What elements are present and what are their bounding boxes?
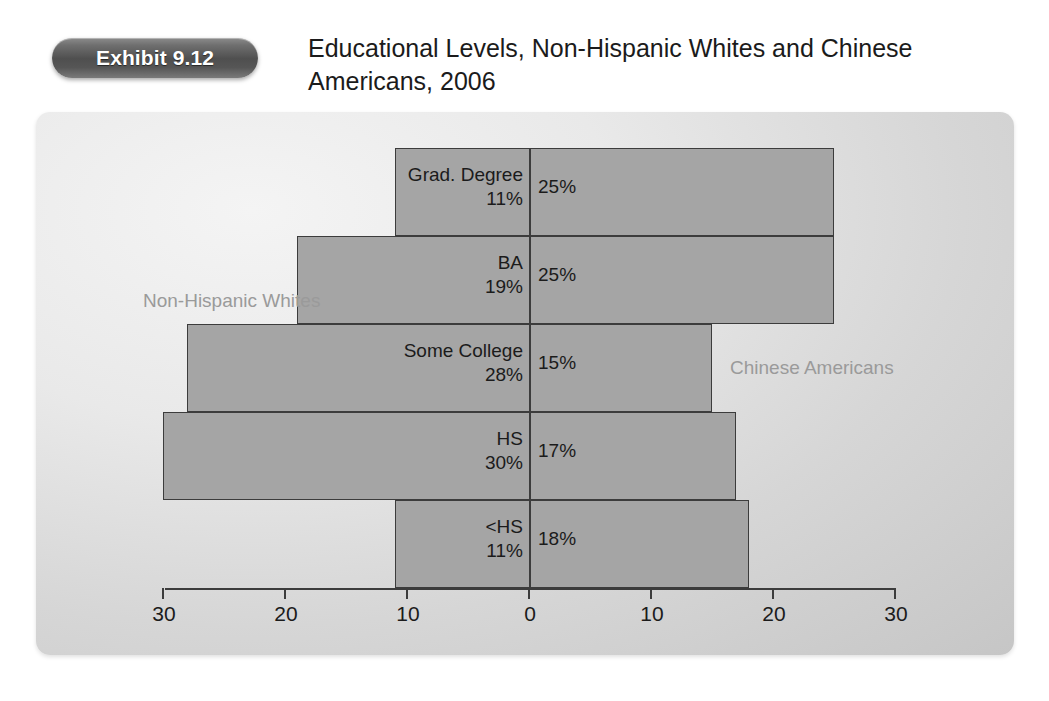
x-axis-tick-label: 30: [866, 602, 926, 626]
bar-left-non-hispanic-whites: <HS11%: [395, 500, 530, 588]
bar-category-and-value-label: Grad. Degree11%: [408, 163, 523, 211]
x-axis-tick-label: 20: [744, 602, 804, 626]
bar-left-non-hispanic-whites: Some College28%: [187, 324, 530, 412]
bar-value-left: 30%: [485, 451, 523, 475]
zero-axis-line: [529, 148, 531, 588]
bar-value-right: 18%: [538, 527, 576, 551]
exhibit-number-label: Exhibit 9.12: [96, 46, 214, 70]
bar-category-label: BA: [485, 251, 523, 275]
bar-value-right: 25%: [538, 175, 576, 199]
bar-right-chinese-americans: 17%: [529, 412, 736, 500]
bar-value-right: 25%: [538, 263, 576, 287]
bar-category-label: Some College: [404, 339, 523, 363]
bar-right-chinese-americans: 25%: [529, 148, 834, 236]
bar-row: Grad. Degree11%25%: [36, 148, 1014, 236]
series-label-non-hispanic-whites: Non-Hispanic Whites: [143, 290, 320, 312]
bar-category-and-value-label: HS30%: [485, 427, 523, 475]
x-axis-tick: [650, 588, 652, 599]
bar-category-label: Grad. Degree: [408, 163, 523, 187]
bar-value-right: 17%: [538, 439, 576, 463]
series-label-chinese-americans: Chinese Americans: [730, 357, 894, 379]
bar-category-label: <HS: [485, 515, 523, 539]
bar-right-chinese-americans: 18%: [529, 500, 749, 588]
bar-value-left: 11%: [408, 187, 523, 211]
x-axis-tick-label: 10: [378, 602, 438, 626]
bar-category-and-value-label: BA19%: [485, 251, 523, 299]
x-axis-tick: [406, 588, 408, 599]
plot-area: <HS11%18%HS30%17%Some College28%15%BA19%…: [36, 112, 1014, 655]
bar-value-left: 28%: [404, 363, 523, 387]
x-axis-tick: [894, 588, 896, 599]
exhibit-header: Exhibit 9.12 Educational Levels, Non-His…: [36, 30, 1016, 110]
bar-row: HS30%17%: [36, 412, 1014, 500]
x-axis-tick-label: 0: [500, 602, 560, 626]
bar-category-and-value-label: <HS11%: [485, 515, 523, 563]
bar-category-and-value-label: Some College28%: [404, 339, 523, 387]
x-axis-tick: [528, 588, 530, 599]
x-axis-tick: [162, 588, 164, 599]
x-axis-tick-label: 30: [134, 602, 194, 626]
bar-value-left: 11%: [485, 539, 523, 563]
bar-right-chinese-americans: 25%: [529, 236, 834, 324]
x-axis-tick-label: 20: [256, 602, 316, 626]
bar-value-left: 19%: [485, 275, 523, 299]
x-axis-tick: [772, 588, 774, 599]
bar-row: <HS11%18%: [36, 500, 1014, 588]
chart-panel: <HS11%18%HS30%17%Some College28%15%BA19%…: [36, 112, 1014, 655]
bar-value-right: 15%: [538, 351, 576, 375]
x-axis-tick-label: 10: [622, 602, 682, 626]
x-axis-tick: [284, 588, 286, 599]
bar-category-label: HS: [485, 427, 523, 451]
x-axis-line: [165, 588, 895, 590]
exhibit-number-badge: Exhibit 9.12: [52, 38, 258, 78]
bar-left-non-hispanic-whites: Grad. Degree11%: [395, 148, 530, 236]
exhibit-title: Educational Levels, Non-Hispanic Whites …: [308, 32, 1008, 98]
bar-left-non-hispanic-whites: HS30%: [163, 412, 530, 500]
bar-left-non-hispanic-whites: BA19%: [297, 236, 530, 324]
bar-right-chinese-americans: 15%: [529, 324, 712, 412]
